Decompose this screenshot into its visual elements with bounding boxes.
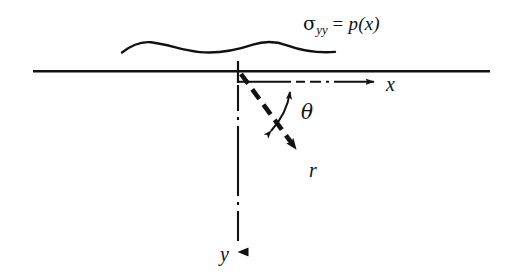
y-axis-label: y: [220, 244, 229, 264]
r-label: r: [309, 160, 317, 180]
diagram-canvas: [0, 0, 510, 278]
pressure-distribution-curve: [122, 42, 335, 52]
x-axis-label: x: [386, 74, 395, 94]
stress-label: σyy = p(x): [303, 14, 380, 37]
sigma-subscript: yy: [316, 22, 327, 37]
equals-symbol: =: [328, 13, 349, 34]
sigma-symbol: σ: [303, 12, 316, 34]
halfspace-diagram: σyy = p(x) x θ r y: [0, 0, 510, 278]
pressure-function-label: p(x): [348, 13, 379, 34]
theta-label: θ: [301, 102, 313, 122]
radial-direction-ray: [241, 74, 296, 149]
